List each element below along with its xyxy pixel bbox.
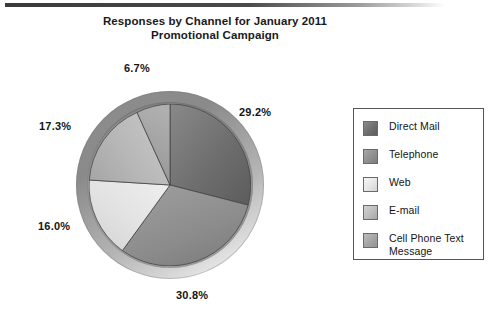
legend-label-direct-mail: Direct Mail xyxy=(389,120,440,133)
pie-label-web: 16.0% xyxy=(38,220,70,232)
chart-legend: Direct Mail Telephone Web E-mail Cell Ph… xyxy=(353,108,484,260)
chart-title: Responses by Channel for January 2011 Pr… xyxy=(0,14,430,42)
legend-label-web: Web xyxy=(389,176,411,189)
pie-label-direct-mail: 29.2% xyxy=(239,106,271,118)
legend-swatch-email xyxy=(363,205,378,220)
legend-item-cell-phone-text: Cell Phone Text Message xyxy=(363,232,483,257)
legend-item-telephone: Telephone xyxy=(363,148,438,164)
legend-swatch-direct-mail xyxy=(363,121,378,136)
page-bottom-caption xyxy=(6,308,489,316)
legend-item-direct-mail: Direct Mail xyxy=(363,120,440,136)
chart-page: Responses by Channel for January 2011 Pr… xyxy=(0,0,495,316)
legend-swatch-web xyxy=(363,177,378,192)
pie-chart xyxy=(76,91,264,279)
page-top-rule xyxy=(5,3,445,7)
legend-label-telephone: Telephone xyxy=(389,148,438,161)
legend-item-web: Web xyxy=(363,176,411,192)
legend-label-cell-phone-text: Cell Phone Text Message xyxy=(389,232,483,257)
pie-slices xyxy=(89,104,251,266)
chart-title-line-2: Promotional Campaign xyxy=(0,28,430,42)
pie-label-email: 17.3% xyxy=(39,120,71,132)
legend-label-email: E-mail xyxy=(389,204,419,217)
chart-title-line-1: Responses by Channel for January 2011 xyxy=(0,14,430,28)
pie-label-cell-phone-text: 6.7% xyxy=(124,62,150,74)
legend-swatch-telephone xyxy=(363,149,378,164)
legend-swatch-cell-phone-text xyxy=(363,233,378,248)
pie-label-telephone: 30.8% xyxy=(176,289,208,301)
legend-item-email: E-mail xyxy=(363,204,419,220)
